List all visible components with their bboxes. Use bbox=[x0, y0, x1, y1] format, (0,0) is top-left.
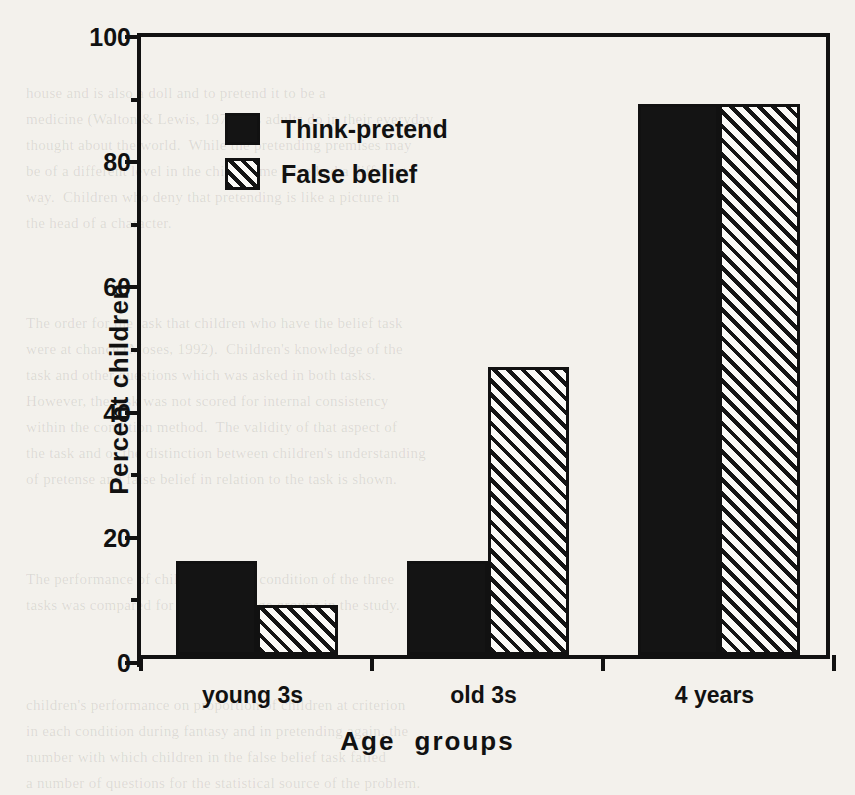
y-tick-label-60: 60 bbox=[103, 275, 131, 300]
x-axis-title: Age groups bbox=[0, 726, 855, 757]
solid-square-icon bbox=[225, 113, 260, 145]
x-axis-label-old-3s: old 3s bbox=[368, 682, 599, 709]
hatched-square-icon bbox=[225, 158, 260, 190]
y-minor-tick-mark-10 bbox=[131, 598, 141, 602]
bar-young-3s-false-belief bbox=[257, 605, 338, 655]
x-tick-mark-1 bbox=[370, 655, 374, 671]
y-minor-tick-mark-50 bbox=[131, 348, 141, 352]
y-minor-tick-mark-70 bbox=[131, 223, 141, 227]
x-tick-mark-2 bbox=[601, 655, 605, 671]
legend-label-think-pretend: Think-pretend bbox=[281, 117, 448, 142]
legend-label-false-belief: False belief bbox=[281, 162, 417, 187]
bar-old-3s-false-belief bbox=[488, 367, 569, 655]
bar-old-3s-think-pretend bbox=[407, 561, 488, 655]
bar-4-years-think-pretend bbox=[638, 104, 719, 655]
legend-entry-think-pretend: Think-pretend bbox=[225, 112, 448, 146]
x-tick-mark-3 bbox=[832, 655, 836, 671]
chart-legend: Think-pretend False belief bbox=[225, 112, 448, 202]
y-tick-label-80: 80 bbox=[103, 150, 131, 175]
y-tick-label-100: 100 bbox=[89, 25, 131, 50]
y-tick-label-20: 20 bbox=[103, 525, 131, 550]
legend-entry-false-belief: False belief bbox=[225, 157, 448, 191]
x-axis-label-4-years: 4 years bbox=[599, 682, 830, 709]
bar-4-years-false-belief bbox=[719, 104, 800, 655]
y-tick-label-0: 0 bbox=[117, 651, 131, 676]
y-minor-tick-mark-30 bbox=[131, 473, 141, 477]
y-axis-title: Percent children bbox=[104, 283, 135, 495]
y-tick-label-40: 40 bbox=[103, 400, 131, 425]
x-axis-label-young-3s: young 3s bbox=[137, 682, 368, 709]
x-tick-mark-0 bbox=[139, 655, 143, 671]
y-minor-tick-mark-90 bbox=[131, 98, 141, 102]
bar-young-3s-think-pretend bbox=[176, 561, 257, 655]
